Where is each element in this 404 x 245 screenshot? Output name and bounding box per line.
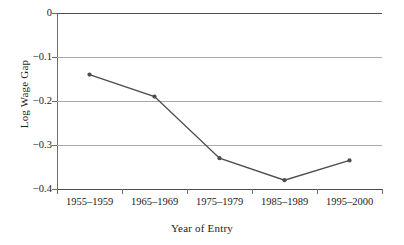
data-point-1 <box>152 95 156 99</box>
data-point-0 <box>87 73 91 77</box>
series-layer <box>0 0 404 245</box>
data-point-3 <box>282 178 286 182</box>
chart-figure: Log Wage Gap 0 −0.1 −0.2 −0.3 −0.4 1955–… <box>0 0 404 245</box>
data-point-4 <box>347 158 351 162</box>
series-line <box>90 75 350 181</box>
data-point-2 <box>217 156 221 160</box>
